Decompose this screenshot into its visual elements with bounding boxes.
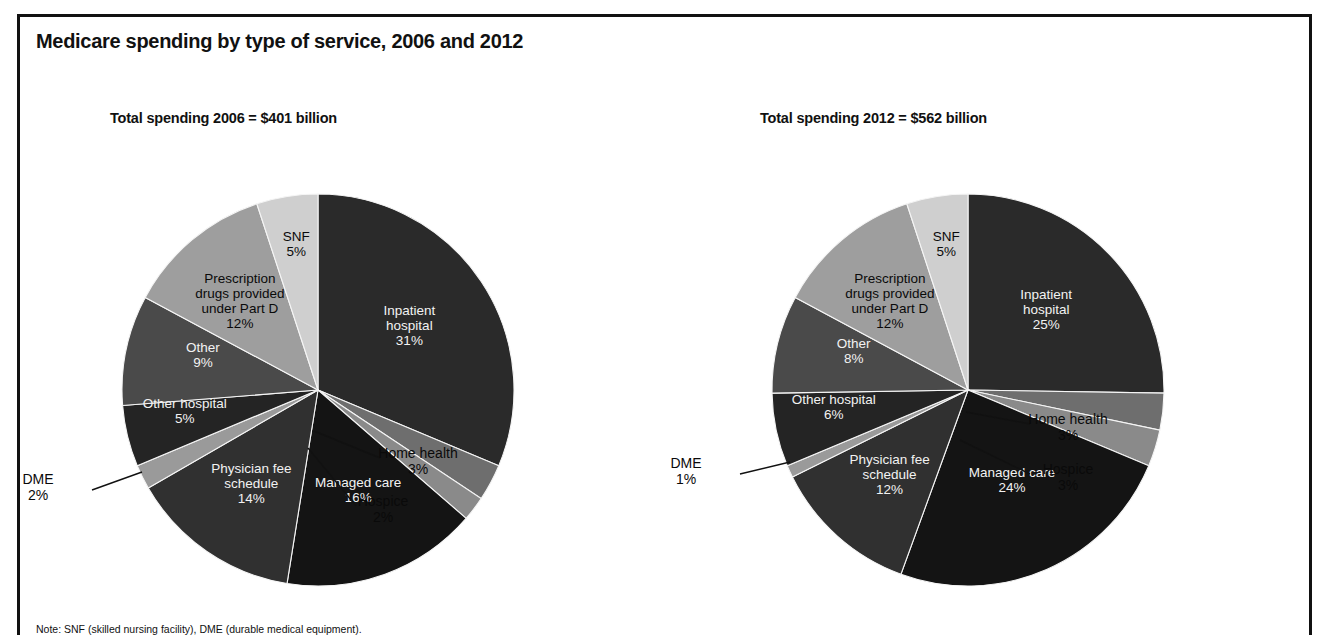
- figure-footnote: Note: SNF (skilled nursing facility), DM…: [36, 623, 362, 635]
- figure-title: Medicare spending by type of service, 20…: [36, 30, 523, 53]
- chart-subtitle-2012: Total spending 2012 = $562 billion: [760, 110, 987, 126]
- callout-label: DME 2%: [0, 471, 93, 503]
- callout-label: Hospice 3%: [1013, 461, 1123, 493]
- pie-slice[interactable]: [968, 194, 1164, 393]
- pie-slices-group: [118, 190, 518, 590]
- callout-label: Hospice 2%: [328, 493, 438, 525]
- figure-page: Medicare spending by type of service, 20…: [0, 0, 1327, 635]
- chart-subtitle-2006: Total spending 2006 = $401 billion: [110, 110, 337, 126]
- pie-chart-2006: Inpatient hospital 31%Managed care 16%Ph…: [118, 190, 518, 590]
- callout-label: Home health 3%: [1013, 411, 1123, 443]
- callout-label: Home health 3%: [363, 445, 473, 477]
- pie-slices-group: [768, 190, 1168, 590]
- callout-label: DME 1%: [631, 455, 741, 487]
- pie-chart-2012: Inpatient hospital 25%Managed care 24%Ph…: [768, 190, 1168, 590]
